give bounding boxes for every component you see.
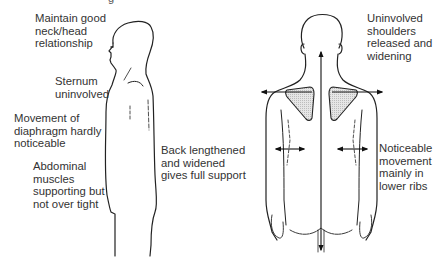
label-sternum: Sternum uninvolved bbox=[55, 75, 109, 100]
side-view-figure bbox=[105, 21, 156, 256]
label-lower-ribs: Noticeable movement mainly in lower ribs bbox=[379, 142, 432, 192]
label-neck-head: Maintain good neck/head relationship bbox=[35, 12, 106, 50]
label-back-lengthened: Back lengthened and widened gives full s… bbox=[161, 144, 246, 182]
label-abdominal: Abdominal muscles supporting but not ove… bbox=[33, 160, 105, 210]
label-diaphragm: Movement of diaphragm hardly noticeable bbox=[14, 112, 101, 150]
label-shoulders: Uninvolved shoulders released and wideni… bbox=[367, 12, 432, 62]
movement-arrows bbox=[262, 52, 382, 250]
